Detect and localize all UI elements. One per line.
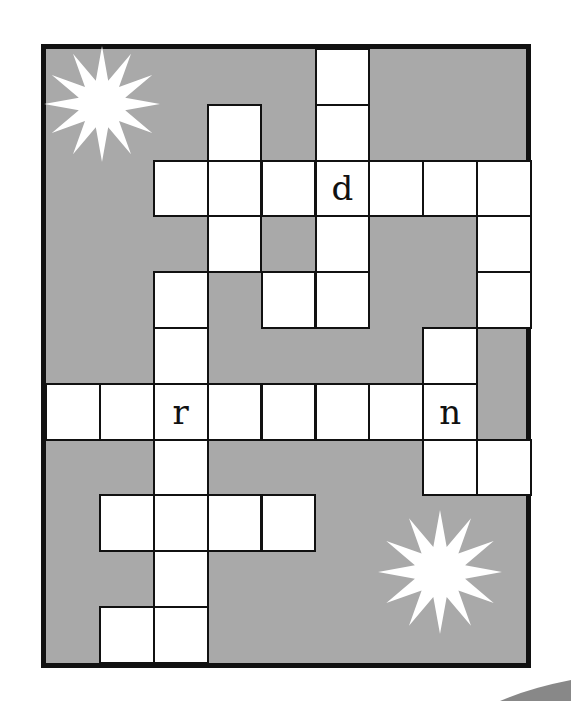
starburst-icon xyxy=(0,0,571,701)
